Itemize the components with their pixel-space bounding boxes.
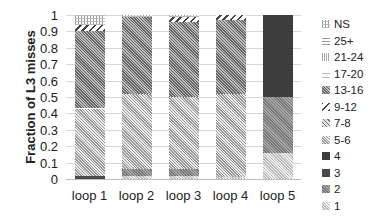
bar-segment-4 <box>263 15 293 97</box>
bar-segment-9-12 <box>216 15 246 20</box>
bar-segment-5-6 <box>216 94 246 178</box>
legend-swatch-icon <box>322 103 330 111</box>
y-tick-label: 1 <box>28 8 58 23</box>
bar-segment-9-12 <box>169 17 199 22</box>
bar-loop-2 <box>122 15 152 179</box>
legend-item: 7-8 <box>322 115 363 132</box>
bar-loop-3 <box>169 15 199 179</box>
bar-segment-5-6 <box>75 109 105 176</box>
y-tick-label: 0.8 <box>28 40 58 55</box>
legend-swatch-icon <box>322 70 330 78</box>
legend-label: 1 <box>334 200 340 212</box>
bar-segment-NS <box>75 15 105 25</box>
legend-swatch-icon <box>322 152 330 160</box>
legend-swatch-icon <box>322 136 330 144</box>
legend-label: 21-24 <box>334 51 363 63</box>
legend-label: 25+ <box>334 35 354 47</box>
legend-item: 3 <box>322 165 363 182</box>
y-tick-label: 0 <box>28 172 58 187</box>
bar-segment-NS <box>169 15 199 17</box>
legend-swatch-icon <box>322 169 330 177</box>
bar-segment-13-16 <box>122 17 152 94</box>
bar-segment-2 <box>122 169 152 176</box>
bar-segment-2 <box>169 169 199 176</box>
legend-label: 7-8 <box>334 117 351 129</box>
legend-item: NS <box>322 16 363 33</box>
legend-item: 2 <box>322 181 363 198</box>
legend-label: 13-16 <box>334 84 363 96</box>
legend-item: 9-12 <box>322 99 363 116</box>
legend-item: 1 <box>322 198 363 215</box>
bar-segment-9-12 <box>75 25 105 32</box>
legend-label: 17-20 <box>334 68 363 80</box>
bar-loop-5 <box>263 15 293 179</box>
legend-item: 4 <box>322 148 363 165</box>
bar-segment-1 <box>263 153 293 179</box>
y-tick-label: 0.6 <box>28 73 58 88</box>
y-tick-label: 0.2 <box>28 139 58 154</box>
legend-label: 9-12 <box>334 101 357 113</box>
y-tick-label: 0.7 <box>28 57 58 72</box>
legend-item: 5-6 <box>322 132 363 149</box>
legend-swatch-icon <box>322 37 330 45</box>
x-tick-label: loop 3 <box>166 188 201 203</box>
legend-label: 4 <box>334 150 340 162</box>
y-tick-label: 0.1 <box>28 155 58 170</box>
bar-loop-1 <box>75 15 105 179</box>
bar-segment-13-16 <box>169 22 199 97</box>
legend-item: 17-20 <box>322 66 363 83</box>
bar-segment-NS <box>122 15 152 17</box>
legend-swatch-icon <box>322 202 330 210</box>
legend-swatch-icon <box>322 119 330 127</box>
legend-label: 2 <box>334 183 340 195</box>
x-tick-label: loop 2 <box>119 188 154 203</box>
x-tick-label: loop 4 <box>213 188 248 203</box>
legend-item: 13-16 <box>322 82 363 99</box>
bar-segment-2 <box>263 97 293 153</box>
y-tick-label: 0.3 <box>28 122 58 137</box>
bar-loop-4 <box>216 15 246 179</box>
x-tick-label: loop 5 <box>260 188 295 203</box>
y-tick-label: 0.9 <box>28 24 58 39</box>
legend-swatch-icon <box>322 20 330 28</box>
bar-segment-5-6 <box>122 94 152 169</box>
legend-label: 3 <box>334 167 340 179</box>
legend-item: 25+ <box>322 33 363 50</box>
legend-label: 5-6 <box>334 134 351 146</box>
legend-item: 21-24 <box>322 49 363 66</box>
legend-swatch-icon <box>322 53 330 61</box>
legend-swatch-icon <box>322 185 330 193</box>
legend-label: NS <box>334 18 350 30</box>
y-tick-label: 0.4 <box>28 106 58 121</box>
x-axis <box>66 179 301 180</box>
plot-area <box>66 15 301 179</box>
bar-segment-5-6 <box>169 97 199 169</box>
legend-swatch-icon <box>322 86 330 94</box>
legend: NS25+21-2417-2013-169-127-85-64321 <box>322 16 363 214</box>
y-tick-label: 0.5 <box>28 90 58 105</box>
bar-segment-13-16 <box>75 31 105 108</box>
x-tick-label: loop 1 <box>72 188 107 203</box>
bar-segment-13-16 <box>216 20 246 94</box>
